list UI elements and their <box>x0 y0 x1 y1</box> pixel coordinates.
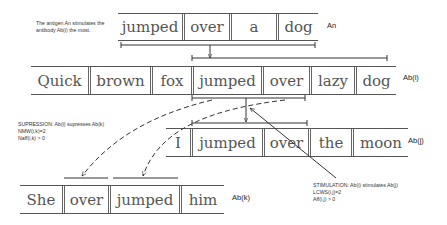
suppression-arrow-over <box>82 100 212 176</box>
connector-lines <box>0 0 447 225</box>
span-bracket-abi-top <box>192 55 387 61</box>
stimulation-pointer <box>250 108 336 178</box>
span-bracket-abj <box>192 120 307 126</box>
suppression-arrow-jumped <box>143 100 285 176</box>
span-bracket-an <box>121 42 315 48</box>
span-bracket-abi-bottom <box>192 95 305 101</box>
